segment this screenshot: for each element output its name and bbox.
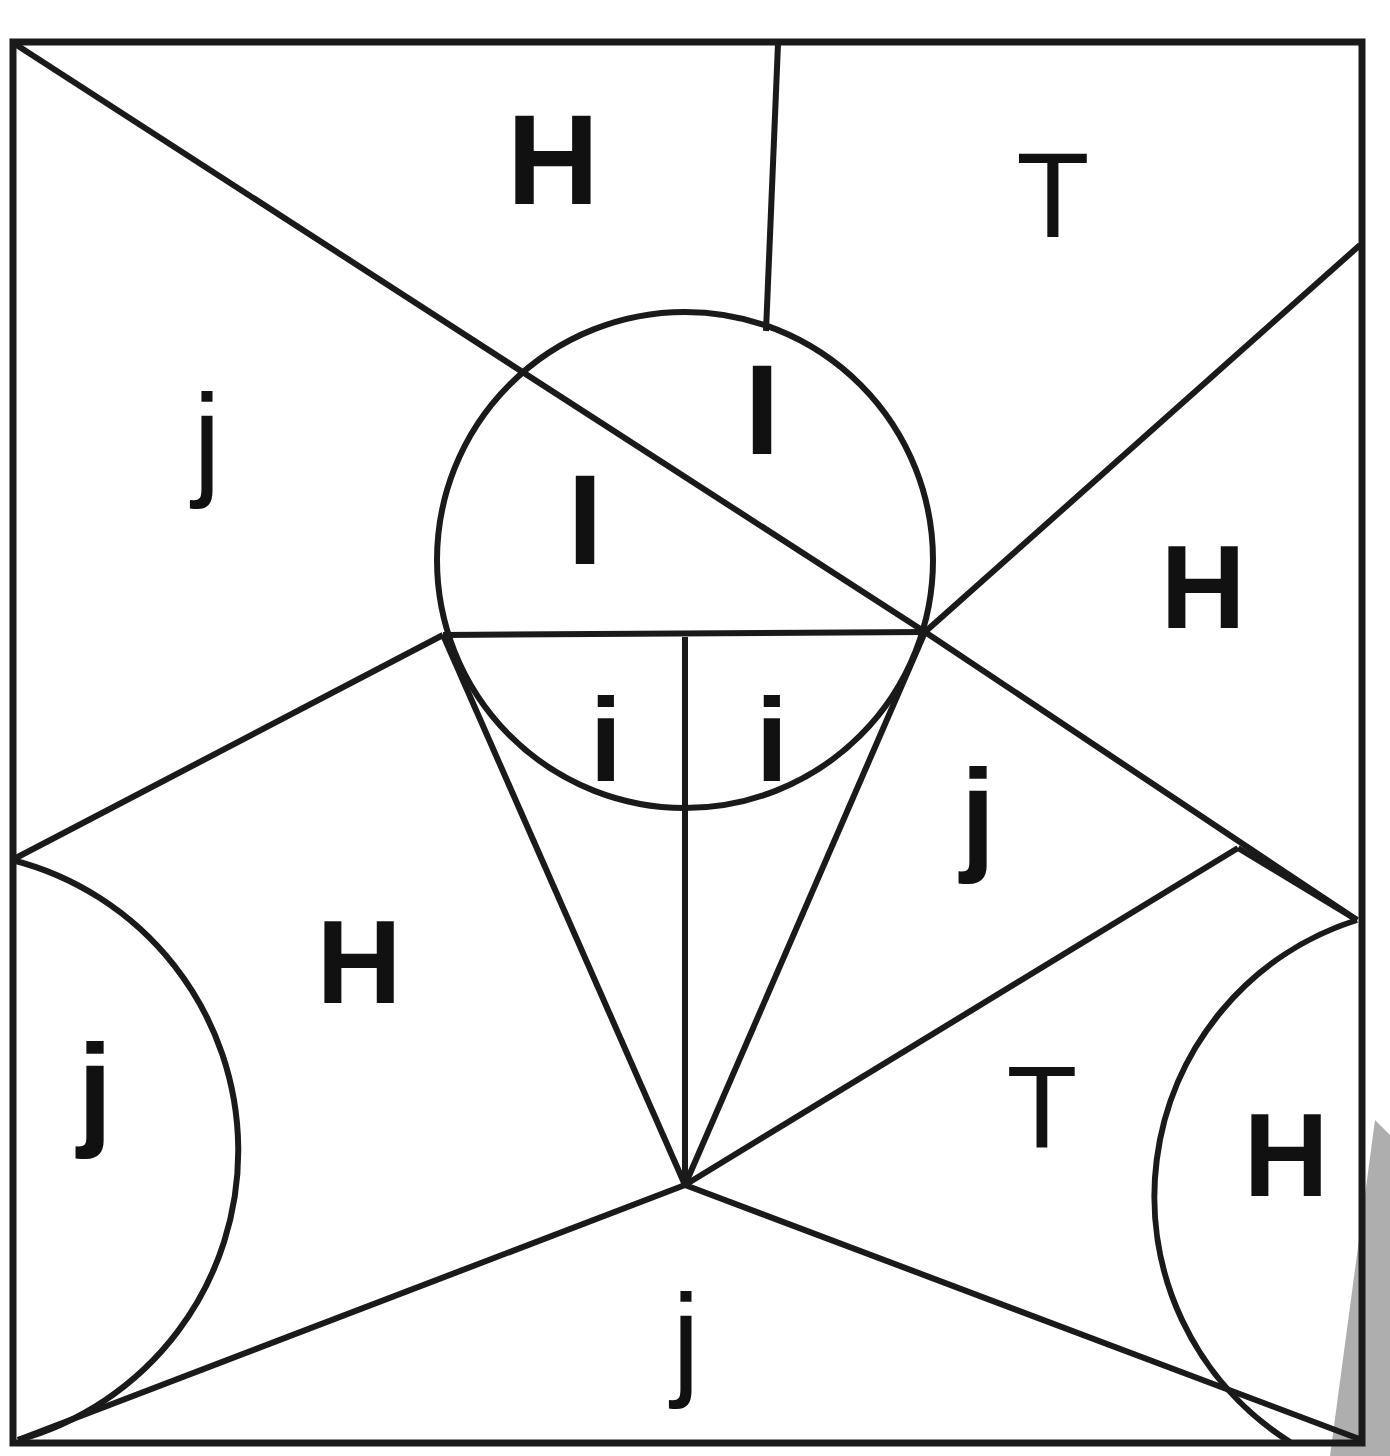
label-i-wedge-right: i [756, 674, 789, 806]
fan-left-spoke [443, 635, 685, 1185]
top-left-diagonal [15, 44, 925, 632]
label-j-midright: j [958, 744, 995, 885]
label-I-circle-left: I [567, 448, 603, 591]
right-upper-diagonal [925, 245, 1360, 632]
bottom-left-long [18, 1185, 685, 1440]
label-T-topright: T [1016, 128, 1089, 262]
left-fan-upper [12, 635, 443, 860]
diagram-canvas: HTjIIHiijHjTHj [0, 0, 1390, 1456]
label-j-left: j [189, 369, 221, 510]
label-j-lowerleft: j [75, 1019, 112, 1160]
label-i-wedge-left: i [590, 674, 623, 806]
letter-label-layer: HTjIIHiijHjTHj [75, 88, 1328, 1410]
fan-right-spoke [685, 632, 925, 1185]
segment-layer [12, 44, 1362, 1440]
label-H-top: H [507, 88, 599, 231]
geometry-figure: HTjIIHiijHjTHj [0, 0, 1390, 1456]
label-I-circle-right: I [744, 338, 780, 481]
bottom-right-long [685, 1185, 1362, 1440]
label-T-lowerright: T [1007, 1043, 1078, 1173]
label-H-rightbulge: H [1243, 1089, 1328, 1221]
edge-kink-to-corner [1238, 848, 1357, 920]
label-H-lowerleft: H [316, 896, 401, 1028]
left-bulge-arc [12, 860, 238, 1440]
label-j-bottom: j [668, 1269, 700, 1410]
chord-horizontal [443, 632, 925, 635]
top-vertical-stub [766, 44, 778, 331]
lower-right-to-edge [685, 848, 1238, 1185]
label-H-right: H [1160, 521, 1245, 653]
